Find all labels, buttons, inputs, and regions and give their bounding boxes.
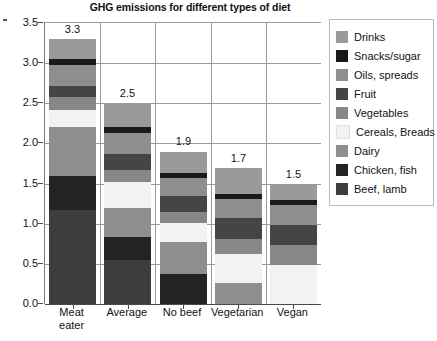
legend-item[interactable]: Cereals, Breads xyxy=(336,122,428,141)
legend-item-label: Beef, lamb xyxy=(354,183,407,195)
bar-segment[interactable] xyxy=(49,176,96,210)
bar-segment[interactable] xyxy=(49,39,96,59)
bar-segment[interactable] xyxy=(49,110,96,128)
plot-area: 3.32.51.91.71.5 xyxy=(44,22,321,304)
legend-swatch-icon xyxy=(336,31,348,43)
y-axis-tick-mark xyxy=(38,102,43,103)
legend-item[interactable]: Vegetables xyxy=(336,103,428,122)
y-axis-tick-mark xyxy=(38,183,43,184)
x-axis-tick-label: Vegan xyxy=(257,306,327,319)
bar-segment[interactable] xyxy=(160,212,207,223)
y-axis-tick-label: 0.5 xyxy=(4,257,38,269)
bar-segment[interactable] xyxy=(104,237,151,260)
legend-swatch-icon xyxy=(336,145,348,157)
legend-item-label: Snacks/sugar xyxy=(354,50,421,62)
bar-segment[interactable] xyxy=(104,103,151,127)
bar-segment[interactable] xyxy=(270,265,317,304)
x-axis-tick-label-line: eater xyxy=(37,319,107,332)
gridline-vertical xyxy=(266,23,267,304)
bar-stack[interactable] xyxy=(160,152,207,304)
bar-value-label: 1.5 xyxy=(270,168,317,180)
bar-value-label: 3.3 xyxy=(49,23,96,35)
bar-stack[interactable] xyxy=(104,103,151,304)
chart-figure: GHG emissions for different types of die… xyxy=(0,0,437,341)
bar-segment[interactable] xyxy=(104,208,151,237)
legend-item[interactable]: Dairy xyxy=(336,141,428,160)
y-axis-tick-label: 3.0 xyxy=(4,56,38,68)
y-axis-tick-mark xyxy=(38,303,43,304)
y-axis-tick-mark xyxy=(38,142,43,143)
bar-segment[interactable] xyxy=(49,210,96,304)
gridline-vertical xyxy=(100,23,101,304)
legend-item-label: Dairy xyxy=(354,145,380,157)
legend-item-label: Drinks xyxy=(354,31,385,43)
y-axis-tick-mark xyxy=(38,22,43,23)
legend-item-label: Chicken, fish xyxy=(354,164,417,176)
bar-segment[interactable] xyxy=(160,152,207,174)
legend-swatch-icon xyxy=(336,50,348,62)
bar-segment[interactable] xyxy=(160,223,207,242)
legend-item[interactable]: Oils, spreads xyxy=(336,65,428,84)
y-axis-tick-label: 2.5 xyxy=(4,96,38,108)
legend-swatch-icon xyxy=(336,125,350,139)
legend-item[interactable]: Chicken, fish xyxy=(336,160,428,179)
bar-segment[interactable] xyxy=(104,170,151,182)
y-axis-tick-label: 2.0 xyxy=(4,136,38,148)
bar-segment[interactable] xyxy=(270,225,317,245)
legend-item[interactable]: Fruit xyxy=(336,84,428,103)
bar-segment[interactable] xyxy=(104,260,151,304)
bar-segment[interactable] xyxy=(49,97,96,110)
bar-segment[interactable] xyxy=(215,218,262,239)
bar-segment[interactable] xyxy=(160,196,207,212)
legend-swatch-icon xyxy=(336,107,348,119)
bar-segment[interactable] xyxy=(160,274,207,305)
bar-segment[interactable] xyxy=(215,239,262,254)
x-axis-tick-label-line: Vegan xyxy=(257,306,327,319)
y-axis-tick-label: 3.5 xyxy=(4,16,38,28)
y-axis: 0.00.51.01.52.02.53.03.5 xyxy=(0,22,38,304)
bar-segment[interactable] xyxy=(215,199,262,218)
bar-segment[interactable] xyxy=(49,127,96,176)
bar-segment[interactable] xyxy=(104,154,151,170)
bar-stack[interactable] xyxy=(49,39,96,304)
bar-segment[interactable] xyxy=(270,184,317,201)
y-axis-tick-label: 1.5 xyxy=(4,177,38,189)
bar-segment[interactable] xyxy=(49,86,96,96)
bar-segment[interactable] xyxy=(215,283,262,304)
bar-value-label: 1.7 xyxy=(215,152,262,164)
bar-value-label: 1.9 xyxy=(160,135,207,147)
legend-swatch-icon xyxy=(336,164,348,176)
y-axis-tick-mark xyxy=(38,223,43,224)
gridline-vertical xyxy=(211,23,212,304)
y-axis-tick-label: 0.0 xyxy=(4,297,38,309)
bar-segment[interactable] xyxy=(270,205,317,225)
legend-swatch-icon xyxy=(336,183,348,195)
legend-item-label: Fruit xyxy=(354,88,376,100)
legend-item[interactable]: Beef, lamb xyxy=(336,179,428,198)
bar-segment[interactable] xyxy=(49,65,96,87)
chart-title: GHG emissions for different types of die… xyxy=(40,1,340,13)
bar-stack[interactable] xyxy=(215,168,262,304)
bar-segment[interactable] xyxy=(270,245,317,264)
bar-segment[interactable] xyxy=(215,254,262,283)
legend-swatch-icon xyxy=(336,69,348,81)
legend-item-label: Vegetables xyxy=(354,107,408,119)
y-axis-tick-mark xyxy=(38,263,43,264)
y-axis-tick-label: 1.0 xyxy=(4,217,38,229)
legend-item-label: Oils, spreads xyxy=(354,69,418,81)
bar-segment[interactable] xyxy=(215,168,262,194)
bar-value-label: 2.5 xyxy=(104,87,151,99)
bar-segment[interactable] xyxy=(104,182,151,208)
chart-legend: DrinksSnacks/sugarOils, spreadsFruitVege… xyxy=(329,19,434,206)
legend-item-label: Cereals, Breads xyxy=(356,126,435,138)
gridline-vertical xyxy=(155,23,156,304)
y-axis-tick-mark xyxy=(38,62,43,63)
bar-segment[interactable] xyxy=(160,242,207,273)
legend-item[interactable]: Drinks xyxy=(336,27,428,46)
bar-segment[interactable] xyxy=(104,133,151,154)
legend-swatch-icon xyxy=(336,88,348,100)
bar-segment[interactable] xyxy=(160,178,207,196)
bar-stack[interactable] xyxy=(270,184,317,304)
legend-item[interactable]: Snacks/sugar xyxy=(336,46,428,65)
